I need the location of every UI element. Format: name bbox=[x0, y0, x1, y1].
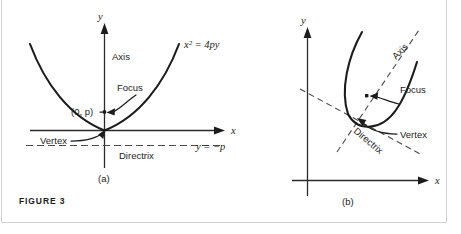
panel-b-x-axis bbox=[292, 177, 429, 185]
panel-b-y-axis-label: y bbox=[300, 15, 306, 26]
panel-b-focus-label: Focus bbox=[400, 84, 426, 95]
panel-b-x-axis-label: x bbox=[434, 175, 440, 186]
panel-b-directrix-label: Directrix bbox=[352, 125, 386, 156]
panel-b-y-axis bbox=[304, 27, 312, 196]
panel-b: Axis Focus Vertex Directrix y x (b) bbox=[0, 0, 461, 234]
figure-panels: Axis Focus (0, p) Vertex Directrix x² = … bbox=[0, 0, 461, 234]
panel-b-vertex-label: Vertex bbox=[400, 129, 427, 140]
panel-b-focus-leader bbox=[370, 93, 400, 105]
panel-b-focus-dot bbox=[365, 94, 368, 97]
panel-b-axis-label: Axis bbox=[390, 41, 411, 62]
panel-b-caption: (b) bbox=[342, 196, 354, 207]
figure-number-label: FIGURE 3 bbox=[19, 196, 65, 206]
figure-root: Axis Focus (0, p) Vertex Directrix x² = … bbox=[0, 0, 461, 234]
